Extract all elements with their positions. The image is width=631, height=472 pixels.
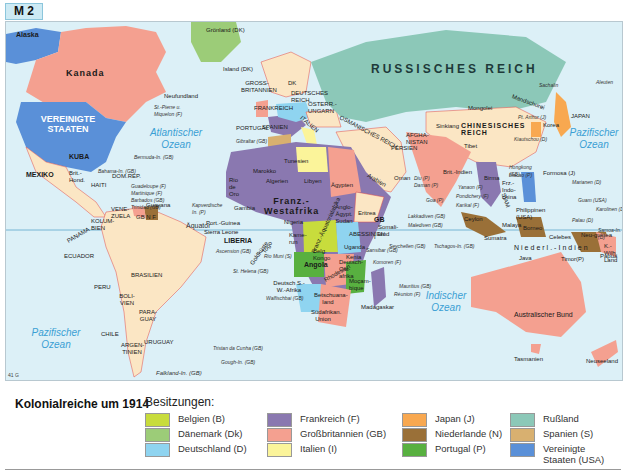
label-diu: Diu (P) — [414, 175, 430, 182]
legend-label: Rußland — [543, 413, 579, 424]
label-macao: Macao (P) — [509, 172, 532, 179]
label-kuba: KUBA — [69, 153, 89, 160]
label-sachalin: Sachalin — [539, 82, 558, 89]
map-number-tag: M 2 — [5, 3, 43, 20]
label-libyen: Libyen — [304, 178, 322, 185]
label-komoren: Komoren (F) — [373, 259, 401, 266]
label-kolumbien: KOLUM-BIEN — [91, 218, 113, 232]
label-anglo-aegypt-sudan: Anglo-Ägypt. Sudan — [333, 204, 355, 225]
label-dk: DK — [288, 80, 296, 87]
label-guam: Guam (USA) — [578, 197, 607, 204]
world-map: Alaska Kanada VEREINIGTE STAATEN Neufund… — [5, 21, 623, 381]
label-afghanistan: AFGHA-NISTAN — [406, 132, 426, 146]
label-franz-indochina: Frz.-Indo-china — [502, 180, 518, 201]
russia-shape — [311, 30, 566, 122]
label-martinique: Martinique (F) — [131, 190, 162, 197]
label-usa: VEREINIGTE STAATEN — [38, 114, 98, 134]
label-portarthur: Pt. Arthur (J) — [518, 114, 546, 121]
label-pondichery: Pondichery (F) — [456, 193, 489, 200]
legend-item-niederlande: Niederlande (N) — [402, 428, 502, 442]
label-rio-muni: Rio Muni (S) — [264, 253, 292, 260]
label-mauritius: Mauritius (GB) — [399, 283, 431, 290]
madagascar-shape — [371, 267, 386, 307]
label-brit-indien: Brit.-Indien — [443, 169, 472, 176]
label-aleuten: Aleuten — [596, 79, 613, 86]
legend-label: Belgien (B) — [178, 413, 225, 424]
label-grossbritannien: GROSS-BRITANNIEN — [241, 80, 273, 94]
label-gibraltar: Gibraltar (GB) — [236, 138, 267, 145]
label-it-somali: I — [374, 234, 376, 241]
label-dom-rep: DOM.REP. — [112, 173, 141, 180]
legend-label: Spanien (S) — [543, 428, 593, 439]
label-st-helena: St. Helena (GB) — [233, 268, 268, 275]
label-kiautschou: Kiautschou (D) — [514, 136, 547, 143]
label-chile: CHILE — [101, 331, 119, 338]
label-gough: Gough-In. (GB) — [221, 359, 255, 366]
label-atlantic: Atlantischer Ozean — [136, 127, 216, 151]
label-peru: PERU — [94, 284, 111, 291]
label-somaliland: Somali-land — [378, 224, 396, 238]
label-franz-westafrika: Franz.-Westafrika — [264, 196, 319, 216]
legend-swatch — [402, 413, 427, 427]
label-gambia: Gambia — [234, 205, 255, 212]
label-walfischbai: Walfischbai (GB) — [266, 295, 303, 302]
legend-title: Kolonialreiche um 1914 — [15, 397, 149, 411]
label-formosa: Formosa (J) — [543, 170, 575, 177]
label-groenland: Grönland (DK) — [206, 27, 245, 34]
label-palau: Palau (D) — [572, 217, 593, 224]
legend-swatch — [402, 428, 427, 442]
label-venezuela: VENE-ZUELA — [111, 206, 133, 220]
legend-item-italien: Italien (I) — [267, 443, 337, 457]
label-nigeria: Nigeria — [284, 219, 303, 226]
label-timor: Timor(P) — [561, 256, 584, 263]
legend-swatch — [145, 443, 170, 457]
label-gb-nl-f: GB N F — [136, 214, 156, 221]
legend-item-portugal: Portugal (P) — [402, 443, 486, 457]
legend-label: Vereinigte Staaten (USA) — [543, 443, 618, 465]
label-goa: Goa (P) — [426, 197, 444, 204]
label-lakkadiven: Lakkadiven (GB) — [408, 213, 445, 220]
tasmania-shape — [531, 344, 541, 354]
label-guadeloupe: Guadeloupe (F) — [131, 183, 166, 190]
label-oman: Oman — [394, 175, 410, 182]
label-port-guinea: Port.-Guinea — [206, 220, 240, 227]
label-malaya: Malaya — [502, 222, 521, 229]
label-tibet: Tibet — [464, 143, 477, 150]
label-algerien: Algerien — [266, 178, 288, 185]
label-kaiser-wilhelm-land: K.-Wilh. Land — [604, 243, 622, 264]
label-suedafrikan-union: Südafrikan. Union — [311, 309, 335, 323]
legend-label: Dänemark (Dk) — [178, 428, 242, 439]
label-birma: Birma — [484, 175, 500, 182]
label-uganda: Uganda — [344, 244, 365, 251]
label-oesterreich: ÖSTERR.-UNGARN — [308, 101, 338, 115]
label-neufundland: Neufundland — [164, 93, 198, 100]
label-brasilien: BRASILIEN — [131, 272, 162, 279]
label-angola: Angola — [304, 261, 328, 268]
label-yanaon: Yanaon (F) — [458, 184, 483, 191]
label-mocambique: Moçam-bique — [349, 278, 367, 292]
label-spanien: SPANIEN — [262, 124, 288, 131]
label-tschagos: Tschagos-In. (GB) — [434, 243, 474, 250]
label-tristan: Tristan da Cunha (GB) — [213, 345, 263, 352]
legend-item-japan: Japan (J) — [402, 413, 475, 427]
label-ecuador: ECUADOR — [64, 253, 94, 260]
label-deutsch-sw-afrika: Deutsch S.-W.-Afrika — [271, 280, 307, 294]
label-haiti: HAITI — [91, 182, 106, 189]
label-karikal: Karikal (F) — [456, 202, 479, 209]
label-niederl-indien: Niederl.-Indien — [514, 244, 590, 251]
label-madagaskar: Madagaskar — [361, 304, 394, 311]
legend-swatch — [267, 428, 292, 442]
legend-label: Portugal (P) — [435, 443, 486, 454]
label-aegypten: Ägypten — [331, 182, 353, 189]
australia-shape — [471, 252, 586, 337]
legend-item-usa: Vereinigte Staaten (USA) — [510, 443, 620, 467]
legend-swatch — [510, 443, 535, 457]
legend-item-belgien: Belgien (B) — [145, 413, 225, 427]
label-stpierre: St.-Pierre u. Miquelon (F) — [154, 104, 194, 118]
label-falkland: Falkland-In. (GB) — [156, 370, 202, 377]
label-ceylon: Ceylon — [464, 216, 483, 223]
label-tasmanien: Tasmanien — [514, 356, 543, 363]
label-sierra-leone: Sierra Leone — [204, 229, 238, 236]
label-java: Java — [519, 255, 532, 262]
label-ascension: Ascension (GB) — [216, 248, 251, 255]
